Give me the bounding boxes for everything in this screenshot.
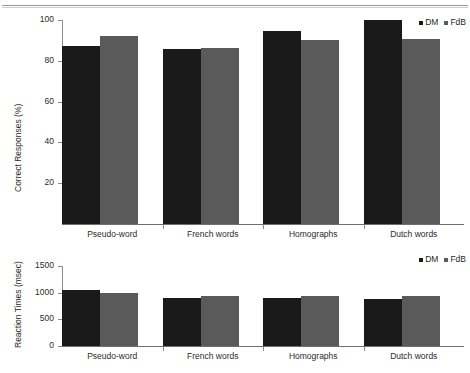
bar-dm	[364, 20, 402, 224]
bar-dm	[163, 49, 201, 224]
panel-correct-responses: Correct Responses (%) DM FdB 20406080100…	[0, 12, 470, 240]
page-top-rule-secondary	[2, 7, 468, 8]
bar-dm	[163, 298, 201, 346]
figure-two-panel-bar-chart: Correct Responses (%) DM FdB 20406080100…	[0, 0, 470, 373]
x-axis-category-label: Homographs	[263, 229, 364, 239]
bar-fdb	[100, 36, 138, 224]
x-axis-category-label: French words	[163, 351, 264, 361]
y-axis-tick	[58, 266, 62, 267]
y-axis-tick	[58, 346, 62, 347]
y-axis-tick	[58, 20, 62, 21]
y-axis-tick-label: 100	[28, 15, 54, 24]
bar-fdb	[301, 40, 339, 224]
bar-fdb	[201, 48, 239, 224]
plot-area-top: 20406080100Pseudo-wordFrench wordsHomogr…	[0, 12, 470, 240]
y-axis-tick-label: 80	[28, 56, 54, 65]
bar-fdb	[100, 293, 138, 346]
x-axis-category-label: Dutch words	[364, 229, 465, 239]
y-axis-tick-label: 40	[28, 137, 54, 146]
x-axis-category-label: Homographs	[263, 351, 364, 361]
y-axis-tick-label: 0	[28, 341, 54, 350]
x-axis-category-label: Dutch words	[364, 351, 465, 361]
plot-area-bottom: 050010001500Pseudo-wordFrench wordsHomog…	[0, 252, 470, 362]
bar-dm	[62, 46, 100, 225]
y-axis-tick-label: 60	[28, 97, 54, 106]
bar-fdb	[402, 296, 440, 346]
y-axis-tick-label: 500	[28, 314, 54, 323]
bar-dm	[263, 298, 301, 346]
x-axis-category-label: Pseudo-word	[62, 229, 163, 239]
y-axis-tick-label: 1500	[28, 261, 54, 270]
x-axis-category-label: Pseudo-word	[62, 351, 163, 361]
page-bottom-margin	[0, 363, 470, 373]
bar-fdb	[301, 296, 339, 346]
bar-dm	[62, 290, 100, 346]
x-axis-category-label: French words	[163, 229, 264, 239]
page-top-rule	[2, 5, 468, 6]
bar-dm	[263, 31, 301, 224]
panel-reaction-times: Reaction Times (msec) DM FdB 05001000150…	[0, 252, 470, 362]
y-axis-tick-label: 20	[28, 178, 54, 187]
bar-fdb	[201, 296, 239, 346]
bar-fdb	[402, 39, 440, 224]
y-axis-tick-label: 1000	[28, 288, 54, 297]
bar-dm	[364, 299, 402, 346]
